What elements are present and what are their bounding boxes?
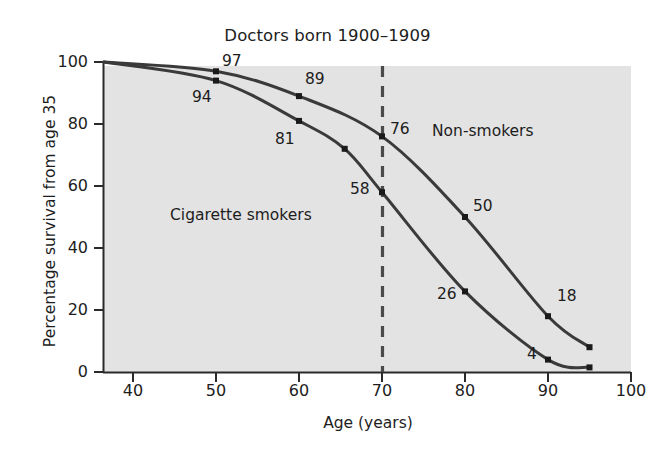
- point-label-cigarette-smokers-50: 94: [192, 88, 212, 106]
- point-label-non-smokers-50: 97: [222, 52, 242, 70]
- data-point-marker: [587, 364, 593, 370]
- y-tick-label-80: 80: [38, 114, 88, 133]
- y-tick-label-100: 100: [38, 52, 88, 71]
- y-tick-label-40: 40: [38, 238, 88, 257]
- data-point-marker: [462, 288, 468, 294]
- y-tick-label-60: 60: [38, 176, 88, 195]
- x-tick-label-80: 80: [435, 381, 495, 400]
- data-point-marker: [462, 214, 468, 220]
- point-label-non-smokers-60: 89: [305, 70, 325, 88]
- chart-figure: Doctors born 1900–1909 Age (years) Perce…: [0, 0, 655, 450]
- point-label-cigarette-smokers-80: 26: [437, 285, 457, 303]
- y-tick-label-0: 0: [38, 362, 88, 381]
- point-label-non-smokers-80: 50: [473, 197, 493, 215]
- series-label-non-smokers: Non-smokers: [432, 122, 534, 140]
- y-axis-label: Percentage survival from age 35: [41, 56, 59, 386]
- chart-title: Doctors born 1900–1909: [0, 26, 655, 45]
- data-point-marker: [296, 118, 302, 124]
- data-point-marker: [545, 313, 551, 319]
- data-point-marker: [545, 357, 551, 363]
- data-point-marker: [213, 68, 219, 74]
- x-tick-label-60: 60: [269, 381, 329, 400]
- data-point-marker: [379, 133, 385, 139]
- x-tick-label-100: 100: [601, 381, 655, 400]
- y-tick-label-20: 20: [38, 300, 88, 319]
- point-label-cigarette-smokers-60: 81: [275, 130, 295, 148]
- series-label-cigarette-smokers: Cigarette smokers: [170, 206, 312, 224]
- data-point-marker: [296, 93, 302, 99]
- x-tick-label-50: 50: [186, 381, 246, 400]
- x-tick-label-40: 40: [103, 381, 163, 400]
- data-point-marker: [587, 344, 593, 350]
- point-label-non-smokers-90: 18: [557, 287, 577, 305]
- data-point-marker: [379, 189, 385, 195]
- data-point-marker: [213, 78, 219, 84]
- point-label-cigarette-smokers-90: 4: [527, 345, 537, 363]
- data-point-marker: [342, 146, 348, 152]
- x-axis-label: Age (years): [103, 414, 633, 432]
- x-tick-label-90: 90: [518, 381, 578, 400]
- point-label-cigarette-smokers-70: 58: [350, 180, 370, 198]
- x-tick-label-70: 70: [352, 381, 412, 400]
- point-label-non-smokers-70: 76: [390, 120, 410, 138]
